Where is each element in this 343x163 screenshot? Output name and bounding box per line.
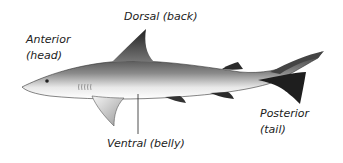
second-dorsal-fin [222, 62, 243, 70]
dorsal-fin [112, 29, 154, 62]
label-posterior-sub: (tail) [260, 122, 286, 137]
shark-anatomy-diagram: Dorsal (back) Anterior (head) Ventral (b… [0, 0, 343, 163]
caudal-fin-upper [270, 51, 324, 74]
label-ventral: Ventral (belly) [107, 136, 185, 151]
label-posterior: Posterior [260, 106, 309, 121]
pelvic-fin [165, 96, 186, 103]
label-anterior: Anterior [26, 32, 70, 47]
shark-eye [45, 79, 49, 83]
pectoral-fin [92, 96, 124, 126]
label-anterior-sub: (head) [26, 48, 62, 63]
anal-fin [210, 92, 234, 99]
label-dorsal: Dorsal (back) [124, 9, 197, 24]
shark-body [22, 52, 322, 99]
